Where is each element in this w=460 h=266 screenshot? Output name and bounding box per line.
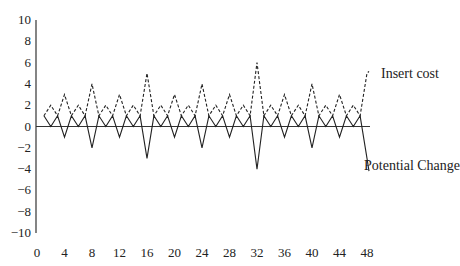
y-tick-label: 8 — [25, 33, 32, 48]
x-tick-label: 20 — [168, 245, 181, 260]
y-tick-label: 2 — [25, 97, 32, 112]
potential-change-series — [44, 116, 369, 171]
y-tick-label: −8 — [17, 204, 31, 219]
chart: 1086420−2−4−6−8−10 048121620242832364044… — [0, 0, 460, 266]
x-tick-label: 44 — [333, 245, 347, 260]
y-tick-label: 0 — [25, 119, 32, 134]
y-tick-label: 6 — [25, 55, 32, 70]
y-tick-label: 4 — [25, 76, 32, 91]
y-tick-label: −4 — [17, 161, 31, 176]
x-tick-label: 16 — [141, 245, 155, 260]
x-axis: 04812162024283236404448 — [34, 127, 374, 261]
x-tick-label: 0 — [34, 245, 41, 260]
x-tick-label: 4 — [61, 245, 68, 260]
x-tick-label: 36 — [278, 245, 292, 260]
x-tick-label: 12 — [113, 245, 126, 260]
x-tick-label: 24 — [196, 245, 210, 260]
y-tick-label: −2 — [17, 140, 31, 155]
y-tick-label: 10 — [18, 12, 31, 27]
x-tick-label: 8 — [89, 245, 96, 260]
y-axis: 1086420−2−4−6−8−10 — [11, 12, 36, 240]
series-labels: Insert cost Potential Change — [364, 66, 460, 173]
insert-cost-series — [44, 63, 369, 116]
series-layer — [44, 63, 369, 172]
y-tick-label: −10 — [11, 225, 31, 240]
potential-change-label: Potential Change — [364, 158, 460, 173]
x-tick-label: 48 — [361, 245, 374, 260]
x-tick-label: 32 — [251, 245, 264, 260]
x-tick-label: 28 — [223, 245, 236, 260]
y-tick-label: −6 — [17, 182, 31, 197]
x-tick-label: 40 — [306, 245, 319, 260]
insert-cost-label: Insert cost — [381, 66, 439, 81]
